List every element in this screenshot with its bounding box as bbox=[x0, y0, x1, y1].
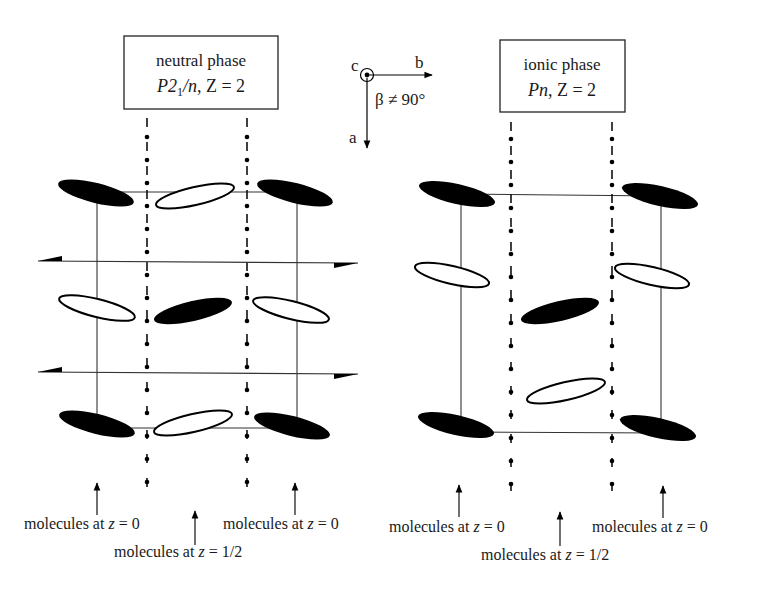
neutral-phase-panel: neutral phase P21/n, Z = 2 bbox=[24, 36, 358, 560]
a-axis-label: a bbox=[349, 128, 357, 147]
screw-axis-left bbox=[145, 118, 150, 500]
crystal-structure-diagram: neutral phase P21/n, Z = 2 bbox=[0, 0, 757, 595]
molecule-filled bbox=[416, 406, 496, 443]
neutral-label-left: molecules at z = 0 bbox=[24, 515, 140, 532]
molecule-filled bbox=[56, 174, 137, 212]
neutral-phase-title: neutral phase bbox=[156, 51, 246, 70]
molecule-open bbox=[613, 259, 691, 294]
neutral-label-center: molecules at z = 1/2 bbox=[114, 543, 242, 560]
b-axis-label: b bbox=[415, 53, 424, 72]
molecule-filled bbox=[620, 177, 700, 214]
ionic-label-left: molecules at z = 0 bbox=[389, 518, 505, 535]
glide-plane-left bbox=[509, 122, 514, 500]
ionic-space-group: Pn, Z = 2 bbox=[527, 80, 596, 100]
glide-plane-right bbox=[610, 122, 615, 500]
molecule-open bbox=[525, 373, 607, 409]
beta-angle-label: β ≠ 90° bbox=[375, 90, 425, 109]
ionic-phase-title: ionic phase bbox=[524, 55, 601, 74]
molecule-open bbox=[154, 178, 236, 214]
neutral-space-group: P21/n, Z = 2 bbox=[156, 76, 245, 99]
molecule-filled bbox=[417, 175, 497, 212]
crystal-axes-indicator: c b a β ≠ 90° bbox=[349, 53, 432, 148]
glide-plane-lower bbox=[38, 367, 358, 379]
neutral-label-right: molecules at z = 0 bbox=[223, 515, 339, 532]
molecule-filled bbox=[618, 409, 698, 446]
molecule-open bbox=[152, 405, 234, 441]
ionic-label-right: molecules at z = 0 bbox=[592, 518, 708, 535]
c-axis-label: c bbox=[351, 56, 359, 75]
molecule-filled bbox=[252, 407, 333, 445]
molecule-filled bbox=[152, 292, 234, 329]
molecule-filled bbox=[519, 292, 601, 329]
molecule-filled bbox=[255, 174, 336, 212]
neutral-phase-title-box: neutral phase P21/n, Z = 2 bbox=[124, 36, 278, 109]
ionic-phase-panel: ionic phase Pn, Z = 2 bbox=[389, 40, 708, 563]
screw-axis-right bbox=[245, 118, 250, 500]
ionic-phase-title-box: ionic phase Pn, Z = 2 bbox=[500, 40, 625, 112]
molecule-open bbox=[251, 292, 331, 328]
ionic-label-center: molecules at z = 1/2 bbox=[481, 546, 609, 563]
glide-plane-upper bbox=[38, 256, 358, 268]
molecule-open bbox=[413, 258, 491, 293]
